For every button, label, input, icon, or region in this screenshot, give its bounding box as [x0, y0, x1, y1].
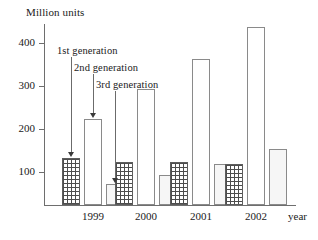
- y-tick-label-400: 400: [8, 36, 35, 48]
- bar-2002-2nd-generation: [247, 27, 265, 205]
- y-tick-100: [39, 172, 45, 173]
- y-tick-200: [39, 129, 45, 130]
- leader-line-3rd-generation: [115, 91, 116, 179]
- bar-1999-2nd-generation: [84, 119, 102, 205]
- x-axis-caption: year: [288, 210, 307, 222]
- leader-line-2nd-generation: [93, 74, 94, 114]
- y-tick-400: [39, 43, 45, 44]
- x-tick-label-2001: 2001: [176, 210, 226, 222]
- y-tick-label-200: 200: [8, 122, 35, 134]
- bar-2002-3rd-generation: [269, 149, 287, 205]
- x-axis-line: [44, 205, 296, 206]
- annotation-1st-generation: 1st generation: [57, 45, 118, 56]
- bar-2001-1st-generation: [170, 162, 188, 205]
- y-tick-label-300: 300: [8, 79, 35, 91]
- annotation-3rd-generation: 3rd generation: [96, 79, 158, 90]
- bar-2000-2nd-generation: [137, 89, 155, 205]
- y-axis-title: Million units: [26, 6, 84, 18]
- y-axis-line: [44, 24, 45, 206]
- x-tick-label-2000: 2000: [121, 210, 171, 222]
- leader-line-1st-generation: [71, 57, 72, 153]
- y-tick-300: [39, 86, 45, 87]
- bar-1999-1st-generation: [62, 158, 80, 205]
- bar-chart: Million units 400 300 200 100 1999 2000 …: [0, 0, 318, 240]
- x-tick-label-2002: 2002: [231, 210, 281, 222]
- leader-arrow-1st-generation: [68, 152, 74, 157]
- bar-2000-1st-generation: [115, 162, 133, 205]
- bar-2001-2nd-generation: [192, 59, 210, 205]
- x-tick-label-1999: 1999: [68, 210, 118, 222]
- bar-2002-1st-generation: [225, 164, 243, 205]
- leader-arrow-2nd-generation: [90, 113, 96, 118]
- leader-arrow-3rd-generation: [112, 178, 118, 183]
- y-tick-label-100: 100: [8, 165, 35, 177]
- annotation-2nd-generation: 2nd generation: [74, 62, 138, 73]
